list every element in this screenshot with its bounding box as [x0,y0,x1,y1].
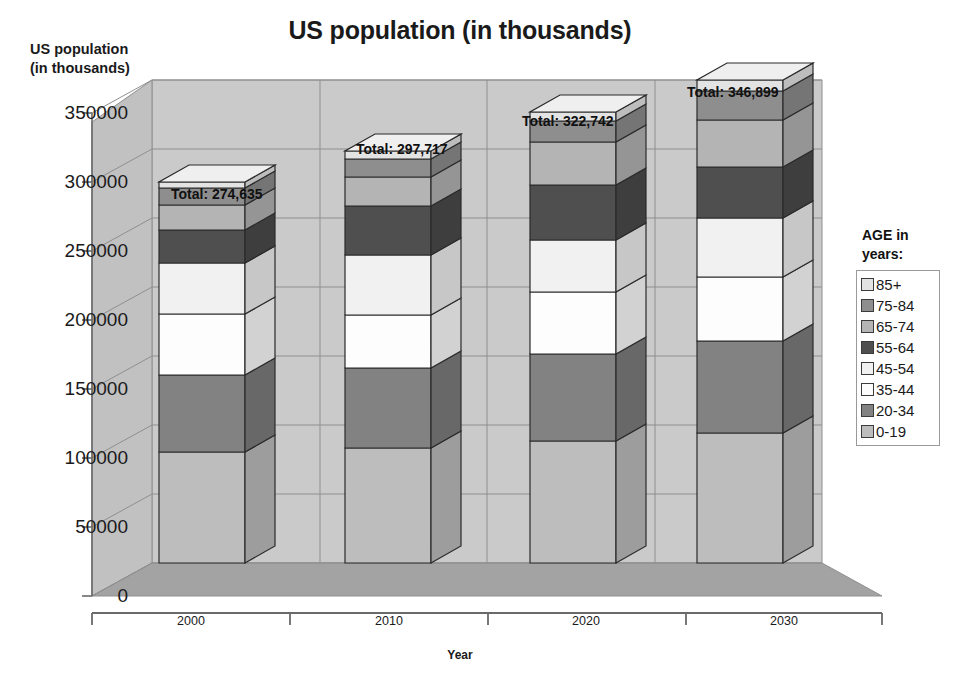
x-tick-2030: 2030 [739,614,829,628]
y-tick-150000: 150000 [28,379,128,398]
y-tick-100000: 100000 [28,448,128,467]
y-tick-350000: 350000 [28,103,128,122]
bar-total-2010: Total: 297,717 [356,141,448,157]
legend-label: 20-34 [876,403,914,418]
y-tick-250000: 250000 [28,241,128,260]
bar-2020[interactable] [530,95,646,563]
x-tick-2020: 2020 [541,614,631,628]
legend-item-75-84[interactable]: 75-84 [861,295,936,316]
legend-swatch-icon [861,278,874,291]
legend-swatch-icon [861,362,874,375]
legend-swatch-icon [861,383,874,396]
legend-swatch-icon [861,404,874,417]
legend-label: 85+ [876,277,901,292]
y-tick-0: 0 [28,586,128,605]
legend-item-35-44[interactable]: 35-44 [861,379,936,400]
legend-item-55-64[interactable]: 55-64 [861,337,936,358]
legend-label: 35-44 [876,382,914,397]
legend-swatch-icon [861,299,874,312]
y-tick-200000: 200000 [28,310,128,329]
legend-item-20-34[interactable]: 20-34 [861,400,936,421]
legend-item-0-19[interactable]: 0-19 [861,421,936,442]
legend-item-45-54[interactable]: 45-54 [861,358,936,379]
chart-title: US population (in thousands) [245,16,675,45]
legend-swatch-icon [861,425,874,438]
legend-swatch-icon [861,320,874,333]
y-tick-300000: 300000 [28,172,128,191]
bar-total-2020: Total: 322,742 [522,113,614,129]
x-axis-title: Year [400,648,520,662]
x-tick-2000: 2000 [146,614,236,628]
chart-plot-area [0,0,956,674]
chart-canvas: US population (in thousands) US populati… [0,0,956,674]
bar-total-2030: Total: 346,899 [687,84,779,100]
x-tick-2010: 2010 [344,614,434,628]
legend-title-line2: years: [862,245,952,264]
legend: AGE in years: 85+ 75-84 65-74 55-64 [856,226,952,446]
legend-label: 55-64 [876,340,914,355]
floor [92,563,882,596]
legend-title-line1: AGE in [862,226,952,245]
y-tick-50000: 50000 [28,517,128,536]
legend-item-85plus[interactable]: 85+ [861,274,936,295]
legend-box: 85+ 75-84 65-74 55-64 45-54 35-44 [856,270,940,446]
legend-label: 75-84 [876,298,914,313]
legend-label: 0-19 [876,424,906,439]
bar-2000[interactable] [159,165,275,563]
legend-label: 45-54 [876,361,914,376]
legend-label: 65-74 [876,319,914,334]
legend-title: AGE in years: [862,226,952,264]
legend-item-65-74[interactable]: 65-74 [861,316,936,337]
x-axis-tick-labels: 2000 2010 2020 2030 [0,614,956,638]
bar-2030[interactable] [697,63,813,563]
bar-total-2000: Total: 274,635 [171,186,263,202]
bar-2010[interactable] [345,134,461,563]
legend-swatch-icon [861,341,874,354]
y-axis-tick-labels: 0 50000 100000 150000 200000 250000 3000… [18,0,128,674]
